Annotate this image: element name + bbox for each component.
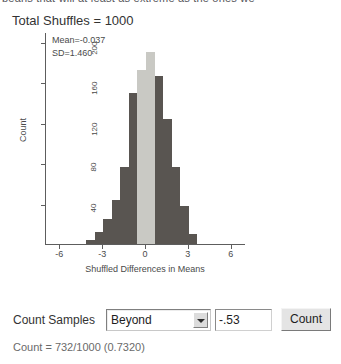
- x-axis-tick-label: -6: [55, 249, 63, 259]
- chevron-down-icon[interactable]: [193, 312, 208, 328]
- plot-area: Mean=-0.037 SD=1.460: [45, 33, 245, 245]
- y-axis-tick-label: 80: [90, 163, 99, 172]
- count-button[interactable]: Count: [281, 308, 331, 331]
- y-axis-tick-label: 200: [90, 42, 99, 55]
- count-samples-label: Count Samples: [13, 313, 95, 327]
- histogram-bar: [172, 167, 181, 244]
- histogram-bar: [120, 167, 129, 244]
- y-axis-tick-mark: [41, 43, 45, 44]
- y-axis-tick-label: 160: [90, 82, 99, 95]
- histogram-bar: [189, 234, 198, 244]
- y-axis-tick-mark: [41, 205, 45, 206]
- x-axis-tick-mark: [59, 245, 60, 249]
- y-axis-title: Count: [18, 118, 28, 142]
- count-button-label: Count: [290, 312, 322, 326]
- controls-row: Count Samples Beyond -.53 Count: [0, 306, 341, 336]
- count-result-text: Count = 732/1000 (0.7320): [13, 341, 145, 353]
- range-select-value: Beyond: [111, 313, 152, 327]
- histogram-bar: [95, 232, 104, 244]
- clipped-page-text: beans that will at least as extreme as t…: [0, 0, 341, 7]
- x-axis-tick-mark: [102, 245, 103, 249]
- histogram-bar: [163, 119, 172, 244]
- histogram-bar: [103, 219, 112, 244]
- histogram-bars: [46, 33, 245, 244]
- histogram-bar: [180, 206, 189, 244]
- histogram-bar: [112, 200, 121, 244]
- x-axis-tick-mark: [145, 245, 146, 249]
- x-axis-tick-label: 3: [185, 249, 190, 259]
- y-axis-tick-mark: [41, 164, 45, 165]
- x-axis-tick-label: 0: [142, 249, 147, 259]
- x-axis-tick-mark: [188, 245, 189, 249]
- x-axis-tick-label: -3: [98, 249, 106, 259]
- x-axis-title: Shuffled Differences in Means: [85, 264, 205, 274]
- x-axis-tick-mark: [231, 245, 232, 249]
- histogram-bar: [129, 93, 138, 244]
- range-select[interactable]: Beyond: [106, 309, 211, 331]
- x-axis-tick-label: 6: [228, 249, 233, 259]
- histogram-bar: [155, 76, 164, 244]
- y-axis-tick-label: 40: [90, 203, 99, 212]
- clipped-page-text-line: beans that will at least as extreme as t…: [2, 0, 255, 4]
- histogram-chart: Count Mean=-0.037 SD=1.460 Shuffled Diff…: [0, 30, 341, 285]
- y-axis-tick-label: 120: [90, 122, 99, 135]
- histogram-bar: [146, 52, 155, 244]
- y-axis-tick-mark: [41, 83, 45, 84]
- page-title: Total Shuffles = 1000: [12, 13, 134, 28]
- cutoff-input-value: -.53: [219, 313, 240, 327]
- y-axis-tick-mark: [41, 124, 45, 125]
- histogram-bar: [137, 70, 146, 244]
- histogram-bar: [86, 240, 95, 244]
- cutoff-input[interactable]: -.53: [215, 309, 272, 331]
